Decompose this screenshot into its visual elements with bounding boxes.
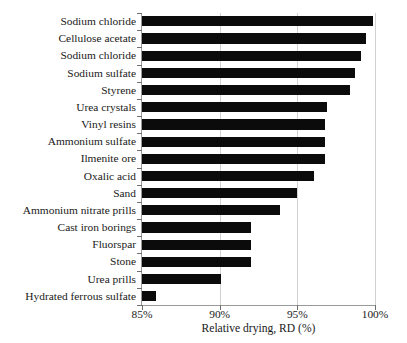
bar-row — [142, 13, 375, 30]
category-label: Oxalic acid — [84, 168, 136, 185]
bar-row — [142, 30, 375, 47]
bar-row — [142, 202, 375, 219]
category-label: Stone — [110, 253, 136, 270]
category-label: Styrene — [101, 82, 136, 99]
category-label: Ammonium nitrate prills — [23, 202, 136, 219]
bar — [142, 51, 361, 61]
category-label: Urea crystals — [76, 99, 136, 116]
category-label: Vinyl resins — [81, 116, 136, 133]
y-tick — [137, 305, 142, 306]
bar-row — [142, 219, 375, 236]
bar — [142, 102, 327, 112]
category-label: Sodium chloride — [60, 47, 136, 64]
x-tick-label: 95% — [267, 308, 327, 320]
x-axis-title-text: Relative drying, RD (%) — [202, 322, 316, 335]
bar-row — [142, 99, 375, 116]
bar — [142, 137, 325, 147]
bar — [142, 291, 156, 301]
category-label: Ilmenite ore — [81, 150, 136, 167]
bar-row — [142, 288, 375, 305]
bar — [142, 68, 355, 78]
bar-row — [142, 82, 375, 99]
x-axis-line — [142, 305, 376, 306]
bar-row — [142, 168, 375, 185]
bar-row — [142, 116, 375, 133]
bar — [142, 257, 251, 267]
bar — [142, 188, 297, 198]
bar — [142, 222, 251, 232]
bar — [142, 240, 251, 250]
bar — [142, 171, 314, 181]
bar-row — [142, 133, 375, 150]
category-label: Fluorspar — [92, 236, 136, 253]
bar-row — [142, 271, 375, 288]
category-label: Ammonium sulfate — [48, 133, 136, 150]
x-tick-label: 90% — [190, 308, 250, 320]
bar-row — [142, 65, 375, 82]
bar — [142, 205, 280, 215]
bar — [142, 33, 366, 43]
bar-row — [142, 236, 375, 253]
category-label: Cellulose acetate — [59, 30, 136, 47]
bar-row — [142, 253, 375, 270]
category-label: Sodium chloride — [60, 13, 136, 30]
category-label: Sand — [113, 185, 136, 202]
relative-drying-bar-chart: Sodium chlorideCellulose acetateSodium c… — [0, 0, 407, 343]
x-tick-label: 100% — [345, 308, 405, 320]
category-label: Urea prills — [88, 271, 136, 288]
gridline-100 — [375, 13, 376, 305]
bar — [142, 85, 350, 95]
bar — [142, 119, 325, 129]
category-label: Hydrated ferrous sulfate — [25, 288, 136, 305]
bar-row — [142, 150, 375, 167]
bar — [142, 154, 325, 164]
bar-row — [142, 185, 375, 202]
x-tick-label: 85% — [112, 308, 172, 320]
bar-row — [142, 47, 375, 64]
x-axis-title: Relative drying, RD (%) — [0, 322, 407, 335]
bar — [142, 16, 373, 26]
category-label: Sodium sulfate — [67, 65, 136, 82]
bar — [142, 274, 221, 284]
category-label: Cast iron borings — [58, 219, 136, 236]
